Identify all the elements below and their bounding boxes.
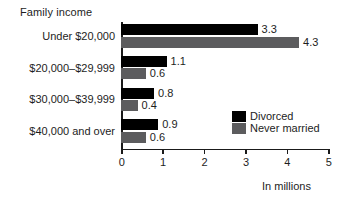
x-axis-tick-label: 2 xyxy=(201,156,207,168)
legend-item-never-married: Never married xyxy=(232,122,320,134)
legend-label-divorced: Divorced xyxy=(250,110,293,122)
bar-value-label: 0.6 xyxy=(150,132,165,143)
legend-swatch-icon-divorced xyxy=(232,111,246,122)
bar-divorced xyxy=(121,88,154,99)
category-axis-labels: Under $20,000$20,000–$29,999$30,000–$39,… xyxy=(0,22,115,149)
category-label: $20,000–$29,999 xyxy=(29,62,115,74)
x-axis-tick-label: 1 xyxy=(160,156,166,168)
bar-value-label: 0.4 xyxy=(142,100,157,111)
legend-label-never-married: Never married xyxy=(250,122,320,134)
bar-value-label: 4.3 xyxy=(303,37,318,48)
legend-item-divorced: Divorced xyxy=(232,110,320,122)
bar-chart-figure: Family income Under $20,000$20,000–$29,9… xyxy=(0,0,357,206)
x-axis-tick-label: 5 xyxy=(326,156,332,168)
bar-divorced xyxy=(121,56,167,67)
category-label: $30,000–$39,999 xyxy=(29,93,115,105)
bar-value-label: 1.1 xyxy=(171,56,186,67)
category-label: $40,000 and over xyxy=(29,125,115,137)
bar-never-married xyxy=(121,68,146,79)
legend-swatch-icon-never-married xyxy=(232,123,246,134)
bar-divorced xyxy=(121,24,258,35)
bar-value-label: 0.9 xyxy=(162,119,177,130)
x-axis-tick-label: 3 xyxy=(243,156,249,168)
chart-legend: Divorced Never married xyxy=(232,110,320,134)
bar-never-married xyxy=(121,100,138,111)
x-axis-caption: In millions xyxy=(262,180,311,192)
bar-divorced xyxy=(121,119,158,130)
category-label: Under $20,000 xyxy=(42,30,115,42)
bar-value-label: 0.8 xyxy=(158,88,173,99)
x-axis-tick-label: 0 xyxy=(119,156,125,168)
bar-never-married xyxy=(121,132,146,143)
bar-never-married xyxy=(121,37,299,48)
x-axis-tick-label: 4 xyxy=(284,156,290,168)
bar-value-label: 3.3 xyxy=(262,24,277,35)
bar-value-label: 0.6 xyxy=(150,68,165,79)
chart-title: Family income xyxy=(20,6,92,18)
